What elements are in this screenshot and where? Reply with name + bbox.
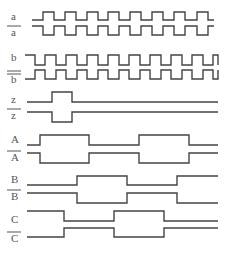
waveform xyxy=(27,92,218,102)
signal-label: A xyxy=(11,133,19,145)
signal-label: B xyxy=(11,173,18,185)
waveform xyxy=(27,112,218,122)
signal-label: B xyxy=(11,190,18,202)
signal-label: z xyxy=(11,93,16,105)
signal-C_bar: C xyxy=(7,228,218,244)
signal-z_bar: z xyxy=(7,109,218,122)
signal-label: C xyxy=(11,213,18,225)
signal-label: b xyxy=(11,51,17,63)
waveform xyxy=(25,55,218,65)
waveform xyxy=(25,70,218,79)
signal-B: B xyxy=(11,173,218,185)
signal-z: z xyxy=(11,92,218,105)
signal-label: C xyxy=(11,232,18,244)
signal-a_bar: a xyxy=(7,26,214,38)
signal-label: A xyxy=(11,151,19,163)
signal-label: z xyxy=(11,109,16,121)
signal-C: C xyxy=(11,211,218,225)
waveform xyxy=(27,211,218,221)
signal-b: b xyxy=(11,51,218,65)
signal-A_bar: A xyxy=(7,151,218,163)
waveform xyxy=(27,135,218,145)
waveform xyxy=(32,12,214,20)
waveform xyxy=(27,153,218,163)
signal-b_bar: b xyxy=(7,70,218,85)
signal-B_bar: B xyxy=(7,190,218,203)
timing-diagram: aabbzzAABBCC xyxy=(0,0,225,255)
waveform xyxy=(27,193,218,203)
signal-label: a xyxy=(11,10,16,22)
signal-a: a xyxy=(11,10,214,22)
waveform xyxy=(27,176,218,185)
signal-A: A xyxy=(11,133,218,145)
waveform xyxy=(27,228,218,237)
waveform xyxy=(32,26,214,35)
signal-label: a xyxy=(11,26,16,38)
signal-label: b xyxy=(11,73,17,85)
